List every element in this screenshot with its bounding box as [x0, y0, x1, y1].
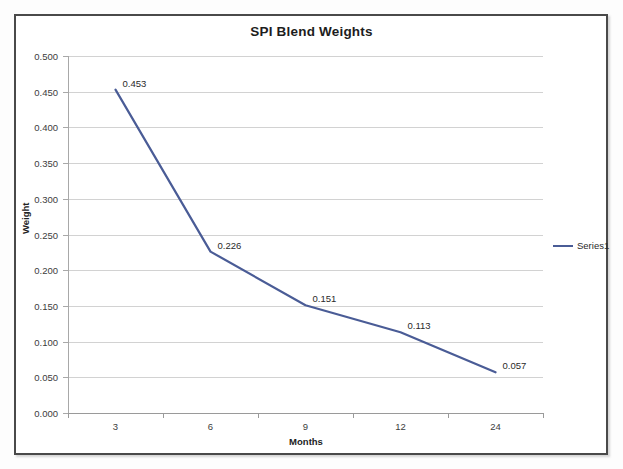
y-tick-label: 0.350	[12, 158, 58, 169]
y-tick-mark	[63, 199, 68, 200]
data-label: 0.226	[218, 240, 242, 251]
x-tick-label: 9	[286, 421, 326, 432]
x-tick-mark	[68, 413, 69, 418]
y-tick-mark	[63, 92, 68, 93]
y-tick-label: 0.100	[12, 336, 58, 347]
legend-color-swatch	[553, 245, 573, 247]
x-axis-title: Months	[68, 436, 544, 447]
x-tick-label: 3	[96, 421, 136, 432]
data-label: 0.113	[408, 320, 431, 331]
chart-legend: Series1	[553, 240, 609, 251]
legend-entry-series1: Series1	[577, 240, 609, 251]
y-tick-mark	[63, 270, 68, 271]
y-tick-mark	[63, 377, 68, 378]
y-axis-line	[68, 56, 69, 414]
x-tick-mark	[543, 413, 544, 418]
y-tick-label: 0.300	[12, 193, 58, 204]
y-tick-mark	[63, 306, 68, 307]
y-tick-label: 0.450	[12, 86, 58, 97]
plot-area	[68, 56, 543, 413]
gridline	[68, 306, 543, 307]
data-label: 0.151	[313, 293, 337, 304]
x-tick-mark	[353, 413, 354, 418]
y-tick-label: 0.500	[12, 51, 58, 62]
x-tick-label: 24	[476, 421, 516, 432]
y-tick-label: 0.150	[12, 300, 58, 311]
x-tick-label: 12	[381, 421, 421, 432]
chart-title: SPI Blend Weights	[0, 24, 623, 39]
chart-screenshot: SPI Blend Weights Weight Months 0.5000.4…	[0, 0, 623, 469]
y-tick-label: 0.250	[12, 229, 58, 240]
x-axis-line	[68, 413, 544, 414]
data-label: 0.453	[123, 78, 147, 89]
gridline	[68, 92, 543, 93]
gridline	[68, 163, 543, 164]
y-tick-label: 0.050	[12, 372, 58, 383]
gridline	[68, 377, 543, 378]
gridline	[68, 56, 543, 57]
x-tick-mark	[448, 413, 449, 418]
y-tick-mark	[63, 342, 68, 343]
x-tick-mark	[163, 413, 164, 418]
x-tick-mark	[258, 413, 259, 418]
y-tick-mark	[63, 127, 68, 128]
gridline	[68, 235, 543, 236]
gridline	[68, 199, 543, 200]
y-tick-mark	[63, 163, 68, 164]
y-tick-label: 0.400	[12, 122, 58, 133]
data-label: 0.057	[503, 360, 527, 371]
x-tick-label: 6	[191, 421, 231, 432]
y-tick-label: 0.200	[12, 265, 58, 276]
gridline	[68, 342, 543, 343]
y-tick-mark	[63, 56, 68, 57]
y-tick-mark	[63, 235, 68, 236]
y-tick-label: 0.000	[12, 408, 58, 419]
gridline	[68, 127, 543, 128]
gridline	[68, 270, 543, 271]
